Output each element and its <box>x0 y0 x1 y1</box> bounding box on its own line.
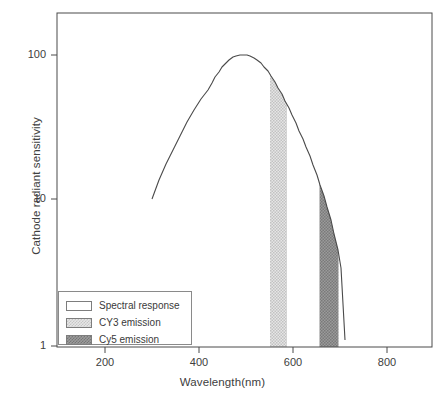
legend-item-cy5-emission: Cy5 emission <box>66 333 159 347</box>
x-tick-label-800: 800 <box>367 356 407 368</box>
chart-legend: Spectral response CY3 emission Cy5 emiss… <box>58 291 192 345</box>
x-tick-label-400: 400 <box>179 356 219 368</box>
chart-figure: 100 10 1 200 400 600 800 Wavelength(nm) … <box>0 0 445 402</box>
y-tick-label-1: 1 <box>6 339 46 351</box>
y-axis-title: Cathode radiant sensitivity <box>30 56 42 316</box>
legend-swatch-cy5-emission <box>66 335 92 345</box>
x-axis-title: Wavelength(nm) <box>0 376 445 388</box>
legend-label-spectral-response: Spectral response <box>99 301 180 311</box>
legend-label-cy5-emission: Cy5 emission <box>99 335 159 345</box>
legend-swatch-spectral-response <box>66 301 92 311</box>
legend-item-spectral-response: Spectral response <box>66 299 180 313</box>
legend-label-cy3-emission: CY3 emission <box>99 318 161 328</box>
legend-item-cy3-emission: CY3 emission <box>66 316 161 330</box>
cy5-emission-band <box>320 13 339 347</box>
x-tick-label-600: 600 <box>273 356 313 368</box>
x-tick-label-200: 200 <box>85 356 125 368</box>
x-axis-ticks <box>105 347 387 353</box>
y-axis-ticks <box>51 55 57 346</box>
legend-swatch-cy3-emission <box>66 318 92 328</box>
cy3-emission-band <box>270 13 287 347</box>
